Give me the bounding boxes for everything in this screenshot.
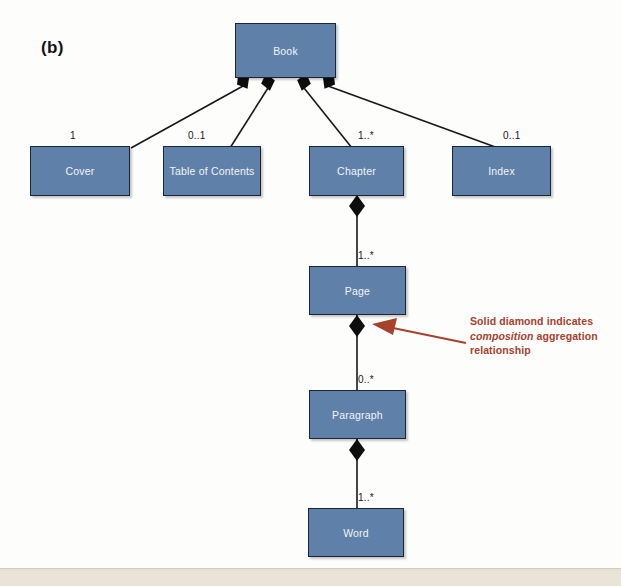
panel-label: (b) [41, 38, 64, 58]
class-box-label: Cover [65, 165, 94, 177]
figure-canvas: (b) Book Cover Table of Contents Chapter… [0, 0, 621, 586]
page-bottom-bar-inner [0, 571, 621, 586]
multiplicity-book-chapter: 1..* [358, 130, 374, 141]
multiplicity-page-paragraph: 0..* [358, 374, 374, 385]
composition-diamond-chapter-page [349, 195, 365, 217]
class-box-label: Table of Contents [169, 165, 254, 177]
assoc-line-book-cover [131, 86, 243, 148]
class-box-label: Index [488, 165, 515, 177]
class-box-table-of-contents[interactable]: Table of Contents [163, 146, 261, 196]
class-box-label: Paragraph [332, 409, 383, 421]
class-box-cover[interactable]: Cover [30, 146, 130, 196]
multiplicity-book-cover: 1 [70, 130, 76, 141]
annotation-line-1: Solid diamond indicates [470, 315, 593, 327]
multiplicity-chapter-page: 1..* [358, 250, 374, 261]
composition-diamond-page-paragraph [349, 315, 365, 337]
class-box-index[interactable]: Index [452, 146, 551, 196]
class-box-label: Page [345, 285, 370, 297]
multiplicity-paragraph-word: 1..* [358, 492, 374, 503]
class-box-paragraph[interactable]: Paragraph [309, 390, 406, 439]
composition-diamond-paragraph-word [349, 439, 365, 461]
class-box-book[interactable]: Book [235, 23, 336, 78]
class-box-chapter[interactable]: Chapter [309, 146, 404, 196]
annotation-line-2-rest: aggregation [534, 330, 598, 342]
class-box-label: Book [273, 45, 298, 57]
annotation-callout: Solid diamond indicates composition aggr… [470, 314, 608, 358]
multiplicity-book-toc: 0..1 [188, 130, 205, 141]
assoc-line-book-toc [230, 88, 268, 148]
class-box-word[interactable]: Word [308, 508, 404, 557]
annotation-arrow-shaft [388, 327, 466, 343]
class-box-page[interactable]: Page [309, 266, 406, 315]
annotation-emphasis: composition [470, 330, 534, 342]
class-box-label: Chapter [337, 165, 376, 177]
multiplicity-book-index: 0..1 [503, 130, 520, 141]
annotation-line-3: relationship [470, 344, 531, 356]
annotation-arrow-head [372, 318, 397, 335]
assoc-line-book-chapter [304, 88, 352, 148]
assoc-line-book-index [328, 86, 498, 148]
class-box-label: Word [343, 527, 369, 539]
